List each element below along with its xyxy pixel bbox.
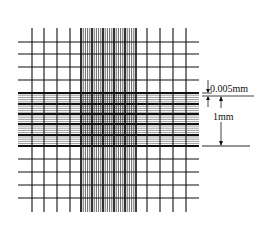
large-spacing-label: 1mm (213, 111, 234, 122)
dense-horizontal-band (18, 93, 199, 146)
thick-boundary-lines (18, 28, 199, 212)
hemocytometer-grid-figure: 0.005mm 1mm (0, 0, 271, 228)
arrowhead-down-icon (219, 141, 223, 146)
outer-grid-lines (18, 28, 199, 212)
scale-annotation: 0.005mm 1mm (202, 80, 254, 146)
dense-vertical-band (81, 28, 134, 212)
small-spacing-label: 0.005mm (210, 83, 248, 94)
grid-diagram: 0.005mm 1mm (0, 0, 271, 228)
arrowhead-up-icon (206, 96, 210, 100)
arrowhead-up-icon (219, 96, 223, 101)
